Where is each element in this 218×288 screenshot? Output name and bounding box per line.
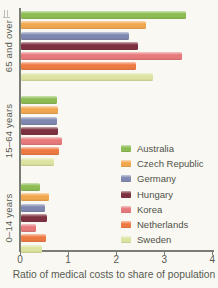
y-axis-group-label: 0–14 years — [3, 183, 15, 253]
legend-item: Sweden — [121, 232, 204, 247]
bar-15-64-years-germany — [21, 117, 57, 125]
bar-65-and-over-korea — [21, 52, 182, 60]
legend-label: Korea — [137, 204, 162, 215]
y-axis-group-label: 15–64 years — [3, 96, 15, 166]
legend-swatch-icon — [121, 145, 131, 152]
legend-label: Hungary — [137, 189, 173, 200]
chart-figure: 65 and over15–64 years0–14 years01234 Au… — [0, 0, 218, 288]
legend-label: Czech Republic — [137, 158, 204, 169]
legend-item: Australia — [121, 141, 204, 156]
x-axis-tick-label: 1 — [65, 254, 71, 265]
legend-label: Sweden — [137, 234, 171, 245]
legend: AustraliaCzech RepublicGermanyHungaryKor… — [121, 141, 204, 247]
bar-0-14-years-australia — [21, 183, 40, 191]
x-axis-tick-label: 2 — [113, 254, 119, 265]
bar-65-and-over-hungary — [21, 42, 139, 50]
legend-item: Hungary — [121, 187, 204, 202]
legend-swatch-icon — [121, 191, 131, 198]
bar-0-14-years-netherlands — [21, 234, 46, 242]
bar-0-14-years-hungary — [21, 214, 47, 222]
x-axis-tick-label: 3 — [162, 254, 168, 265]
legend-label: Netherlands — [137, 219, 188, 230]
legend-swatch-icon — [121, 175, 131, 182]
bar-0-14-years-germany — [21, 204, 45, 212]
bar-0-14-years-korea — [21, 224, 37, 232]
bar-65-and-over-netherlands — [21, 62, 136, 70]
legend-item: Netherlands — [121, 217, 204, 232]
bar-65-and-over-czech-republic — [21, 21, 146, 29]
x-axis-tick-label: 4 — [210, 254, 216, 265]
bar-15-64-years-australia — [21, 96, 57, 104]
x-axis-tick-label: 0 — [17, 254, 23, 265]
bar-0-14-years-czech-republic — [21, 193, 50, 201]
legend-swatch-icon — [121, 206, 131, 213]
bar-15-64-years-netherlands — [21, 147, 60, 155]
bar-0-14-years-sweden — [21, 245, 43, 253]
legend-swatch-icon — [121, 160, 131, 167]
legend-item: Czech Republic — [121, 156, 204, 171]
legend-swatch-icon — [121, 221, 131, 228]
legend-label: Australia — [137, 143, 174, 154]
bar-65-and-over-germany — [21, 32, 129, 40]
bar-15-64-years-korea — [21, 137, 62, 145]
bar-15-64-years-czech-republic — [21, 106, 59, 114]
bar-15-64-years-hungary — [21, 127, 59, 135]
x-axis-title: Ratio of medical costs to share of popul… — [12, 269, 216, 280]
legend-item: Germany — [121, 171, 204, 186]
legend-item: Korea — [121, 202, 204, 217]
y-axis-group-label: 65 and over — [3, 11, 15, 81]
legend-label: Germany — [137, 173, 176, 184]
bar-65-and-over-australia — [21, 11, 187, 19]
bar-65-and-over-sweden — [21, 73, 153, 81]
bar-15-64-years-sweden — [21, 158, 55, 166]
legend-swatch-icon — [121, 236, 131, 243]
